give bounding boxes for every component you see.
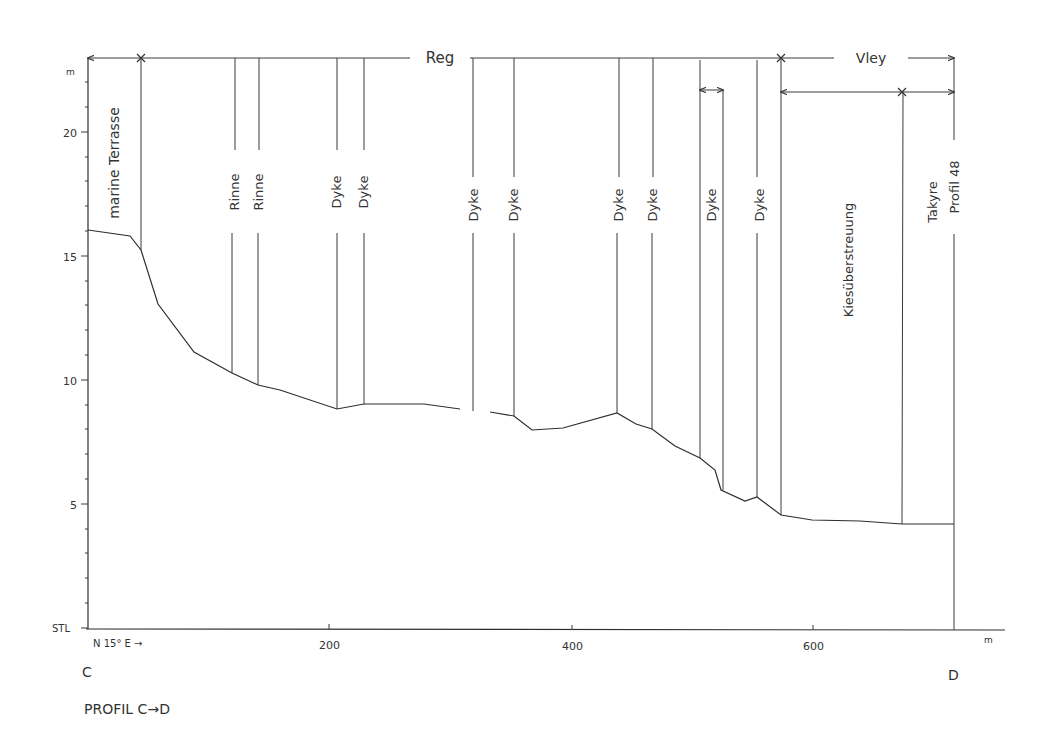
y-unit-label: m bbox=[66, 67, 75, 77]
zone-label-kiesuberstreuung: Kiesüberstreuung bbox=[841, 203, 856, 318]
feature-label-rinne: Rinne bbox=[227, 173, 242, 210]
y-base-label: STL bbox=[52, 623, 70, 634]
feature-label-dyke: Dyke bbox=[611, 189, 626, 222]
y-tick-10: 10 bbox=[63, 375, 77, 388]
zone-label-profil-48: Profil 48 bbox=[947, 160, 962, 213]
terrain-profile-line-2 bbox=[490, 412, 954, 524]
direction-label: N 15° E → bbox=[93, 638, 142, 649]
y-tick-20: 20 bbox=[63, 127, 77, 140]
feature-label-dyke: Dyke bbox=[704, 189, 719, 222]
figure-title: PROFIL C→D bbox=[84, 701, 170, 717]
feature-label-rinne: Rinne bbox=[251, 173, 266, 210]
feature-label-dyke: Dyke bbox=[356, 176, 371, 209]
x-unit-label: m bbox=[984, 635, 993, 645]
end-point-label: D bbox=[948, 667, 959, 683]
x-axis bbox=[86, 624, 1005, 630]
feature-label-dyke: Dyke bbox=[645, 189, 660, 222]
y-axis bbox=[81, 58, 88, 629]
feature-label-dyke: Dyke bbox=[752, 189, 767, 222]
start-point-label: C bbox=[82, 664, 92, 680]
x-tick-600: 600 bbox=[803, 640, 824, 653]
zone-dimension-lines bbox=[88, 54, 954, 96]
y-tick-15: 15 bbox=[63, 251, 77, 264]
zone-label-takyre: Takyre bbox=[925, 181, 940, 224]
feature-label-dyke: Dyke bbox=[329, 176, 344, 209]
x-tick-400: 400 bbox=[562, 640, 583, 653]
zone-label-vley: Vley bbox=[856, 50, 886, 66]
zone-label-marine-terrasse: marine Terrasse bbox=[106, 107, 122, 219]
profile-diagram: m 20 15 10 5 STL 200 400 600 m N 15° E →… bbox=[0, 0, 1059, 751]
y-tick-5: 5 bbox=[70, 499, 77, 512]
feature-label-dyke: Dyke bbox=[506, 189, 521, 222]
feature-label-dyke: Dyke bbox=[466, 189, 481, 222]
feature-lines bbox=[141, 58, 954, 630]
terrain-profile-line bbox=[88, 230, 460, 409]
zone-label-reg: Reg bbox=[426, 49, 455, 67]
x-tick-200: 200 bbox=[319, 639, 340, 652]
